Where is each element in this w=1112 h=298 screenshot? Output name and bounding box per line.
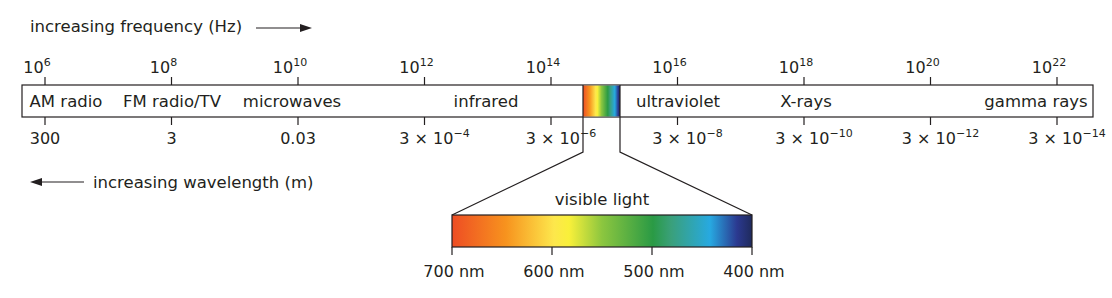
wavelength-tick-label: 3 <box>166 129 176 148</box>
frequency-tick-label: 106 <box>23 56 50 77</box>
visible-tick-label: 400 nm <box>723 262 784 281</box>
frequency-tick-label: 1020 <box>905 56 939 77</box>
visible-band <box>583 86 620 117</box>
wavelength-axis-title: increasing wavelength (m) <box>93 173 313 192</box>
band-label: X-rays <box>780 92 832 111</box>
band-label: FM radio/TV <box>123 92 222 111</box>
visible-ticks: 700 nm600 nm500 nm400 nm <box>423 247 784 281</box>
band-label: infrared <box>454 92 519 111</box>
visible-tick-label: 700 nm <box>423 262 484 281</box>
visible-tick-label: 600 nm <box>523 262 584 281</box>
wavelength-tick-labels: 30030.033 × 10−43 × 10−63 × 10−83 × 10−1… <box>30 127 1106 148</box>
frequency-tick-label: 1018 <box>779 56 813 77</box>
visible-tick-label: 500 nm <box>623 262 684 281</box>
band-label: ultraviolet <box>636 92 721 111</box>
wavelength-tick-label: 3 × 10−8 <box>652 127 722 148</box>
frequency-tick-label: 1010 <box>273 56 307 77</box>
frequency-tick-label: 1016 <box>652 56 686 77</box>
frequency-tick-label: 1022 <box>1032 56 1066 77</box>
right-arrow-icon <box>256 24 312 32</box>
wavelength-tick-label: 0.03 <box>280 129 316 148</box>
frequency-tick-label: 108 <box>150 56 177 77</box>
frequency-tick-labels: 1061081010101210141016101810201022 <box>23 56 1066 77</box>
wavelength-tick-label: 3 × 10−12 <box>902 127 979 148</box>
wavelength-tick-label: 3 × 10−10 <box>775 127 852 148</box>
wavelength-tick-label: 3 × 10−14 <box>1028 127 1105 148</box>
band-label: gamma rays <box>984 92 1087 111</box>
visible-spectrum-bar <box>452 215 752 247</box>
wavelength-tick-label: 3 × 10−4 <box>399 127 469 148</box>
visible-light-label: visible light <box>555 190 650 209</box>
wavelength-tick-label: 3 × 10−6 <box>526 127 596 148</box>
band-label: microwaves <box>243 92 341 111</box>
frequency-tick-label: 1014 <box>526 56 560 77</box>
left-arrow-icon <box>30 178 84 186</box>
band-label: AM radio <box>30 92 103 111</box>
em-spectrum-diagram: increasing frequency (Hz) 10610810101012… <box>0 0 1112 298</box>
wavelength-tick-label: 300 <box>30 129 61 148</box>
frequency-tick-label: 1012 <box>399 56 433 77</box>
frequency-axis-title: increasing frequency (Hz) <box>30 17 242 36</box>
